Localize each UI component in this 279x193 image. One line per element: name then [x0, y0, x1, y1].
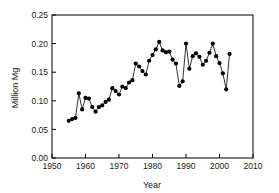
- data-point: [227, 52, 231, 56]
- data-point: [110, 86, 114, 90]
- data-point: [124, 86, 128, 90]
- y-tick-label: 0.20: [31, 39, 48, 49]
- data-point: [140, 69, 144, 73]
- data-point: [90, 105, 94, 109]
- x-tick-label: 1960: [76, 161, 95, 171]
- data-point: [204, 59, 208, 63]
- y-tick-label: 0.10: [31, 96, 48, 106]
- data-point: [157, 40, 161, 44]
- data-point: [184, 42, 188, 46]
- data-point: [87, 96, 91, 100]
- data-point: [174, 62, 178, 66]
- data-point: [194, 51, 198, 55]
- data-point: [167, 50, 171, 54]
- x-tick-label: 2000: [210, 161, 229, 171]
- line-chart: 1950196019701980199020002010 0.000.050.1…: [0, 0, 279, 193]
- data-point: [144, 72, 148, 76]
- data-point: [177, 84, 181, 88]
- x-axis-title: Year: [143, 180, 161, 190]
- data-point: [100, 103, 104, 107]
- y-axis-title: Million Mg: [10, 68, 20, 109]
- data-point: [191, 54, 195, 58]
- data-point: [117, 92, 121, 96]
- data-point: [224, 87, 228, 91]
- data-point: [107, 98, 111, 102]
- chart-figure: 1950196019701980199020002010 0.000.050.1…: [0, 0, 279, 193]
- data-point: [80, 107, 84, 111]
- data-point: [221, 71, 225, 75]
- y-tick-label: 0.15: [31, 67, 48, 77]
- data-point: [154, 47, 158, 51]
- data-point: [134, 62, 138, 66]
- x-tick-label: 1990: [177, 161, 196, 171]
- data-point: [214, 54, 218, 58]
- data-point: [181, 79, 185, 83]
- data-point: [93, 110, 97, 114]
- y-tick-label: 0.05: [31, 125, 48, 135]
- x-tick-label: 1970: [110, 161, 129, 171]
- y-tick-label: 0.25: [31, 10, 48, 20]
- data-point: [207, 51, 211, 55]
- x-tick-label: 2010: [244, 161, 263, 171]
- data-point: [187, 67, 191, 71]
- data-point: [73, 116, 77, 120]
- data-point: [150, 53, 154, 57]
- data-point: [137, 64, 141, 68]
- data-point: [130, 78, 134, 82]
- data-point: [201, 63, 205, 67]
- x-tick-label: 1980: [143, 161, 162, 171]
- data-point: [77, 91, 81, 95]
- data-point: [114, 89, 118, 93]
- data-point: [197, 55, 201, 59]
- data-point: [171, 58, 175, 62]
- data-point: [217, 61, 221, 65]
- data-point: [211, 42, 215, 46]
- y-tick-label: 0.00: [31, 153, 48, 163]
- data-point: [147, 59, 151, 63]
